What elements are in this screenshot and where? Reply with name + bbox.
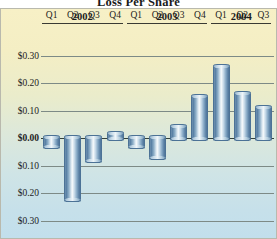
bar-2002-q4: [107, 134, 124, 138]
bar-cap-top: [85, 135, 102, 139]
bar-cap-bottom: [213, 137, 230, 141]
bar-cap-top: [213, 64, 230, 68]
bar-cap-top: [128, 135, 145, 139]
bar-cap-bottom: [128, 145, 145, 149]
bar-2002-q2: [64, 138, 81, 199]
bar-cap-top: [107, 131, 124, 135]
bar-cap-bottom: [255, 137, 272, 141]
bars-layer: [1, 9, 276, 238]
bar-cap-top: [191, 94, 208, 98]
bar-2002-q3: [85, 138, 102, 160]
bar-cap-bottom: [191, 137, 208, 141]
bar-2003-q2: [149, 138, 166, 157]
bar-cap-top: [149, 135, 166, 139]
bar-2004-q2: [234, 94, 251, 138]
bar-cap-bottom: [107, 137, 124, 141]
bar-cap-bottom: [64, 198, 81, 202]
bar-2003-q3: [170, 127, 187, 138]
chart-title: Loss Per Share: [0, 0, 277, 8]
bar-2004-q3: [255, 108, 272, 138]
bar-cap-bottom: [234, 137, 251, 141]
chart-plot-frame: 2002Q1Q2Q3Q42003Q1Q2Q3Q42004Q1Q2Q3 $0.30…: [0, 8, 277, 239]
bar-cap-top: [170, 124, 187, 128]
bar-cap-bottom: [149, 156, 166, 160]
chart-screenshot: Loss Per Share 2002Q1Q2Q3Q42003Q1Q2Q3Q42…: [0, 0, 277, 239]
bar-cap-top: [43, 135, 60, 139]
bar-cap-bottom: [85, 159, 102, 163]
bar-cap-bottom: [43, 145, 60, 149]
bar-2003-q1: [128, 138, 145, 146]
bar-cap-top: [64, 135, 81, 139]
bar-2002-q1: [43, 138, 60, 146]
bar-2003-q4: [191, 97, 208, 138]
bar-cap-top: [255, 105, 272, 109]
bar-cap-bottom: [170, 137, 187, 141]
bar-2004-q1: [213, 67, 230, 139]
bar-cap-top: [234, 91, 251, 95]
